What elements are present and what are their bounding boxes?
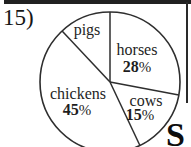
slice-percent-cows: 15% [126, 107, 155, 123]
slice-percent-horses-sign: % [139, 59, 152, 75]
slice-percent-horses: 28% [123, 59, 152, 75]
slice-label-chickens: chickens [50, 86, 106, 102]
slice-percent-chickens-number: 45 [63, 101, 79, 118]
slice-percent-chickens: 45% [63, 102, 92, 118]
slice-percent-cows-number: 15 [126, 106, 142, 123]
cut-off-letter-s: S [166, 118, 185, 147]
worksheet-pie-chart-panel: 15) pigs horses 28% chickens 45% cows 15… [0, 0, 191, 147]
slice-percent-chickens-sign: % [79, 102, 92, 118]
slice-label-horses: horses [117, 42, 158, 58]
slice-percent-cows-sign: % [142, 107, 155, 123]
slice-label-pigs: pigs [74, 22, 101, 38]
slice-percent-horses-number: 28 [123, 58, 139, 75]
